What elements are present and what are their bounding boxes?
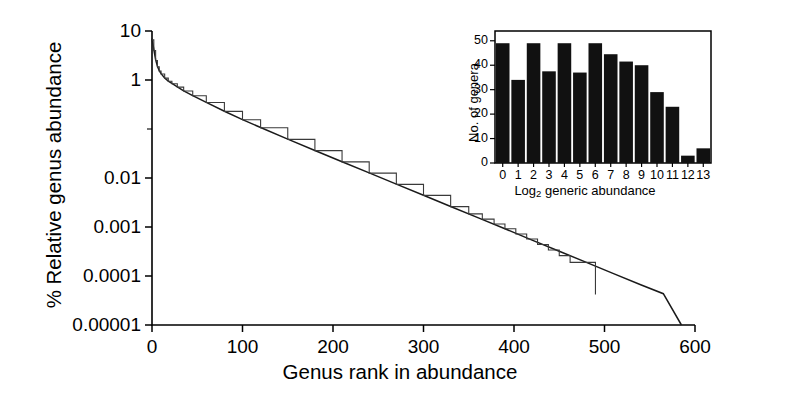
inset-y-axis-title: No. of genera <box>466 48 481 158</box>
inset-bar <box>573 73 587 163</box>
y-tick-label: 0.0001 <box>83 266 141 285</box>
y-tick-label: 1 <box>130 70 141 89</box>
inset-x-axis-title: Log2 generic abundance <box>475 183 695 199</box>
inset-bar <box>527 43 541 163</box>
x-tick-label: 300 <box>384 337 464 356</box>
inset-bar <box>588 43 602 163</box>
inset-bar <box>619 62 633 163</box>
inset-bar <box>542 71 556 163</box>
inset-bar <box>635 65 649 163</box>
inset-bar <box>558 43 572 163</box>
x-tick-label: 100 <box>203 337 283 356</box>
inset-bars <box>496 43 710 163</box>
inset-bar <box>511 80 525 163</box>
y-tick-label: 0.01 <box>104 168 141 187</box>
y-axis-title: % Relative genus abundance <box>42 25 66 325</box>
inset-histogram: 01020304050 012345678910111213 No. of ge… <box>455 15 720 205</box>
inset-bar <box>604 54 618 163</box>
inset-bar <box>650 92 664 163</box>
inset-y-tick-label: 50 <box>474 34 488 47</box>
log-base-subscript: 2 <box>536 188 541 199</box>
inset-x-tick-label: 13 <box>688 169 718 182</box>
x-axis-title: Genus rank in abundance <box>180 360 620 384</box>
y-tick-label: 0.00001 <box>72 315 141 334</box>
x-tick-label: 600 <box>655 337 735 356</box>
inset-bar <box>496 43 510 163</box>
x-tick-label: 200 <box>293 337 373 356</box>
inset-y-tick-label: 0 <box>481 156 488 169</box>
figure-rank-abundance: 1010.010.0010.00010.00001 01002003004005… <box>0 0 788 399</box>
x-tick-label: 500 <box>565 337 645 356</box>
inset-bar <box>666 107 680 163</box>
x-tick-label: 0 <box>112 337 192 356</box>
inset-bar <box>681 156 695 163</box>
inset-bar <box>696 148 710 163</box>
y-tick-label: 10 <box>120 21 141 40</box>
x-tick-label: 400 <box>474 337 554 356</box>
y-tick-label: 0.001 <box>93 217 141 236</box>
